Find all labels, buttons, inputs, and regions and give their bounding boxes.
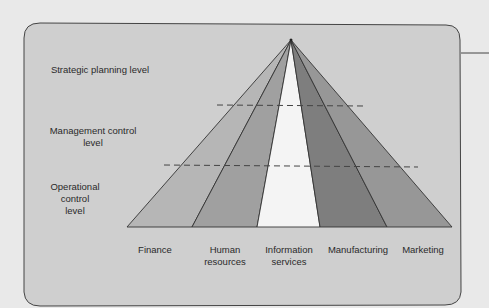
apex-point [290, 39, 293, 42]
function-label-information-services: Information services [258, 244, 320, 268]
function-label-finance: Finance [130, 244, 180, 256]
level-label-operational: Operational control level [45, 181, 105, 217]
level-label-management: Management control level [40, 125, 146, 149]
level-label-strategic: Strategic planning level [40, 64, 160, 76]
function-label-manufacturing: Manufacturing [320, 244, 396, 256]
function-label-marketing: Marketing [398, 244, 448, 256]
function-label-human-resources: Human resources [200, 244, 250, 268]
